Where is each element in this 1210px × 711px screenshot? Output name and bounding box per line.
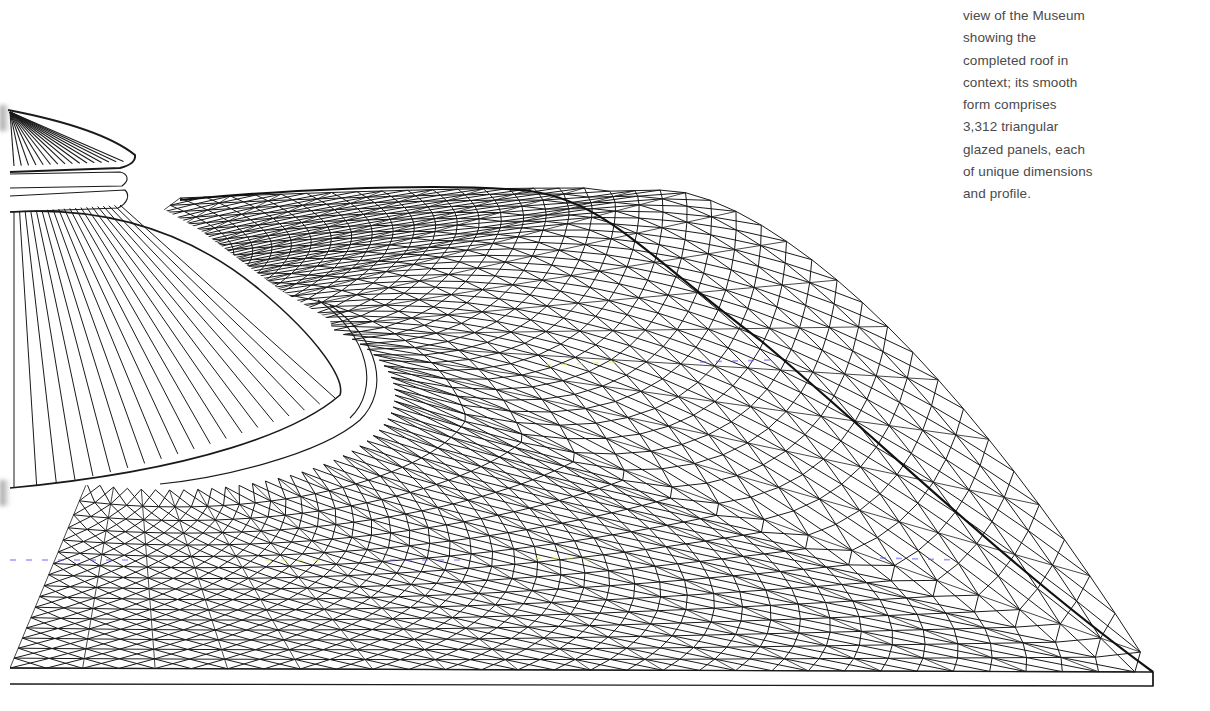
caption-line: context; its smooth [963,72,1143,94]
caption-line: form comprises [963,94,1143,116]
figure-caption: view of the Museum showing the completed… [963,5,1143,206]
caption-line: glazed panels, each [963,139,1143,161]
central-dome [8,110,377,488]
caption-line: and profile. [963,183,1143,205]
caption-line: showing the [963,27,1143,49]
scan-shadow-bottom [0,480,10,506]
caption-line: of unique dimensions [963,161,1143,183]
scan-shadow-top [0,105,10,131]
roof-outline [180,187,1153,672]
caption-line: view of the Museum [963,5,1143,27]
caption-line: 3,312 triangular [963,116,1143,138]
caption-line: completed roof in [963,50,1143,72]
roof-base-slab [10,668,1153,686]
